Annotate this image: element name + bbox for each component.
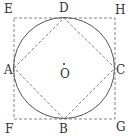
label-d: D <box>59 1 69 15</box>
label-c: C <box>116 63 125 77</box>
center-point-o <box>63 63 65 65</box>
geometry-diagram: E D H A O C F B G <box>0 0 128 136</box>
label-a: A <box>3 63 13 77</box>
label-o: O <box>60 67 70 81</box>
label-h: H <box>115 3 125 17</box>
label-g: G <box>116 120 126 134</box>
label-f: F <box>5 122 13 136</box>
label-e: E <box>4 2 13 16</box>
label-b: B <box>59 122 68 136</box>
